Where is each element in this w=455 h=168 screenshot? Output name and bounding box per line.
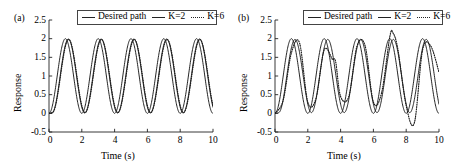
- panel-a-legend: Desired path K=2 K=6: [77, 10, 217, 25]
- panel-a-legend-entry-1: K=2: [152, 12, 185, 22]
- panel-a: (a) Response 2.5 2 1.5 1 0.5 0 -0.5 0 2 …: [0, 0, 227, 168]
- panel-b-legend-label-2: K=6: [433, 12, 450, 22]
- line-dotted-icon: [191, 17, 204, 18]
- panel-a-legend-label-0: Desired path: [98, 12, 146, 22]
- line-solid-icon: [308, 17, 321, 18]
- panel-a-legend-label-1: K=2: [168, 12, 185, 22]
- panel-b-legend-label-1: K=2: [394, 12, 411, 22]
- panel-b-legend-entry-2: K=6: [417, 12, 450, 22]
- panel-b-plot: [228, 0, 455, 168]
- panel-a-legend-entry-2: K=6: [191, 12, 224, 22]
- line-solid-icon: [82, 17, 95, 18]
- panel-b-legend-entry-0: Desired path: [308, 12, 372, 22]
- panel-a-plot: [0, 0, 227, 168]
- figure-root: (a) Response 2.5 2 1.5 1 0.5 0 -0.5 0 2 …: [0, 0, 455, 168]
- panel-b: (b) Response 2.5 2 1.5 1 0.5 0 -0.5 0 2 …: [228, 0, 455, 168]
- line-solid-icon: [152, 17, 165, 18]
- panel-b-legend-label-0: Desired path: [324, 12, 372, 22]
- panel-a-legend-entry-0: Desired path: [82, 12, 146, 22]
- panel-b-legend-entry-1: K=2: [378, 12, 411, 22]
- panel-b-legend: Desired path K=2 K=6: [303, 10, 443, 25]
- line-dotted-icon: [417, 17, 430, 18]
- line-solid-icon: [378, 17, 391, 18]
- panel-a-legend-label-2: K=6: [207, 12, 224, 22]
